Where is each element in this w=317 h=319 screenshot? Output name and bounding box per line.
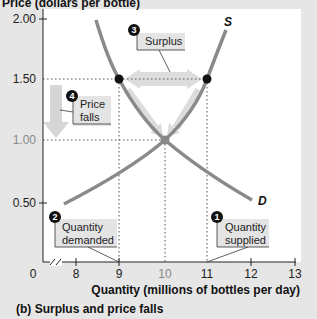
x-tick-8: 8: [73, 267, 80, 281]
svg-text:2: 2: [52, 212, 57, 222]
x-tick-0: 0: [30, 267, 37, 281]
x-tick-13: 13: [288, 267, 302, 281]
svg-text:Quantity: Quantity: [62, 221, 103, 233]
svg-text:Surplus: Surplus: [145, 35, 183, 47]
svg-text:3: 3: [131, 25, 136, 35]
equilibrium-point: [161, 136, 170, 145]
svg-text:supplied: supplied: [225, 234, 266, 246]
y-tick-2.00: 2.00: [13, 12, 37, 26]
y-tick-0.50: 0.50: [13, 196, 37, 210]
chart: Price (dollars per bottle) S D: [0, 0, 317, 319]
svg-text:4: 4: [69, 91, 74, 101]
svg-text:demanded: demanded: [62, 234, 114, 246]
axis-break-icon: [50, 258, 62, 266]
svg-text:Price: Price: [80, 98, 105, 110]
y-axis-label: Price (dollars per bottle): [2, 0, 140, 10]
point-quantity-supplied: [203, 75, 212, 84]
x-tick-9: 9: [116, 267, 123, 281]
demand-label: D: [258, 194, 267, 208]
y-tick-1.00: 1.00: [13, 133, 37, 147]
point-quantity-demanded: [115, 75, 124, 84]
figure-caption: (b) Surplus and price falls: [16, 302, 164, 316]
y-tick-1.50: 1.50: [13, 72, 37, 86]
x-tick-10: 10: [158, 267, 172, 281]
svg-text:falls: falls: [80, 111, 100, 123]
supply-label: S: [224, 15, 232, 29]
svg-text:Quantity: Quantity: [225, 221, 266, 233]
x-tick-11: 11: [201, 267, 214, 281]
svg-text:1: 1: [214, 212, 219, 222]
x-axis-label: Quantity (millions of bottles per day): [91, 283, 300, 297]
x-tick-12: 12: [244, 267, 258, 281]
